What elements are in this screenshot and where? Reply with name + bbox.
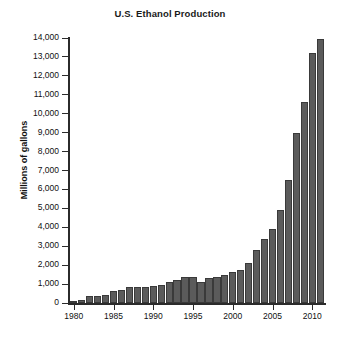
y-axis-tick	[62, 38, 68, 39]
x-axis-tick	[153, 304, 154, 310]
y-axis-tick-label: 3,000	[38, 241, 59, 250]
y-axis-tick-label: 11,000	[34, 90, 59, 99]
x-axis-spine	[68, 303, 326, 305]
y-axis-tick-label: 1,000	[38, 279, 59, 288]
bar	[110, 291, 117, 303]
bar	[142, 287, 149, 303]
y-axis-tick-label: 6,000	[38, 184, 59, 193]
y-axis-tick-label: 4,000	[38, 222, 59, 231]
x-axis-tick-label: 2010	[303, 312, 322, 321]
y-axis-tick	[62, 75, 68, 76]
x-axis-tick	[74, 304, 75, 310]
bar	[245, 263, 252, 303]
x-axis-tick-label: 2000	[223, 312, 242, 321]
y-axis-tick	[62, 56, 68, 57]
bar	[189, 277, 196, 304]
y-axis-tick	[62, 208, 68, 209]
bar	[102, 295, 109, 303]
bar	[317, 39, 324, 303]
x-axis-tick	[273, 304, 274, 310]
x-axis-tick-label: 1990	[144, 312, 163, 321]
bar	[150, 286, 157, 303]
bar	[197, 282, 204, 303]
y-axis-tick-label: 0	[54, 298, 59, 307]
bar	[229, 272, 236, 303]
x-axis-tick	[193, 304, 194, 310]
bar	[70, 301, 77, 303]
y-axis-tick	[62, 246, 68, 247]
x-axis-tick	[233, 304, 234, 310]
bar	[309, 53, 316, 303]
y-axis-tick-label: 10,000	[33, 109, 59, 118]
chart-title: U.S. Ethanol Production	[0, 8, 340, 19]
y-axis-tick	[62, 132, 68, 133]
bar	[221, 275, 228, 303]
x-axis-tick	[114, 304, 115, 310]
x-axis-tick	[312, 304, 313, 310]
chart-figure: U.S. Ethanol Production Millions of gall…	[0, 0, 340, 337]
bar	[134, 287, 141, 303]
bar	[166, 282, 173, 303]
y-axis-tick-label: 12,000	[33, 71, 59, 80]
y-axis-tick	[62, 113, 68, 114]
y-axis-tick	[62, 303, 68, 304]
bar	[293, 133, 300, 303]
y-axis-tick-label: 9,000	[38, 128, 59, 137]
bar	[181, 277, 188, 303]
y-axis-tick-label: 13,000	[33, 52, 59, 61]
bar	[213, 277, 220, 304]
x-axis-tick-label: 1985	[104, 312, 123, 321]
bar	[205, 278, 212, 303]
bar	[277, 210, 284, 303]
y-axis-tick	[62, 94, 68, 95]
y-axis-tick-label: 7,000	[38, 166, 59, 175]
y-axis-tick	[62, 151, 68, 152]
plot-area	[69, 38, 325, 303]
bar	[237, 270, 244, 304]
bar	[86, 296, 93, 303]
bar	[158, 285, 165, 303]
y-axis-tick	[62, 170, 68, 171]
y-axis-tick	[62, 189, 68, 190]
bar	[78, 300, 85, 303]
bar	[118, 290, 125, 303]
y-axis-tick-label: 14,000	[33, 33, 59, 42]
bar	[94, 296, 101, 303]
bar	[261, 239, 268, 303]
x-axis-tick-label: 2005	[263, 312, 282, 321]
bar	[269, 229, 276, 303]
x-axis-tick-label: 1980	[64, 312, 83, 321]
y-axis-tick	[62, 284, 68, 285]
y-axis-title: Millions of gallons	[19, 85, 29, 235]
bar	[301, 102, 308, 303]
y-axis-tick-label: 5,000	[38, 203, 59, 212]
y-axis-tick-label: 2,000	[38, 260, 59, 269]
y-axis-tick	[62, 265, 68, 266]
bar	[285, 180, 292, 303]
y-axis-tick-label: 8,000	[38, 147, 59, 156]
bar	[126, 287, 133, 303]
bar	[253, 250, 260, 303]
x-axis-tick-label: 1995	[184, 312, 203, 321]
bar	[173, 280, 180, 303]
y-axis-tick	[62, 227, 68, 228]
